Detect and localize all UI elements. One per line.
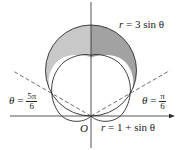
x-axis-arrow-icon <box>169 114 175 118</box>
fraction-pi-6: π6 <box>159 92 166 111</box>
cardioid-equation-label: r = 1 + sin θ <box>101 121 155 133</box>
fraction-5pi-6: 5π6 <box>26 92 37 111</box>
equals-sign: = <box>14 94 26 106</box>
fraction-denominator: 6 <box>159 102 166 111</box>
circle-equation-label: r = 3 sin θ <box>119 18 164 30</box>
equals-sign: = <box>147 94 159 106</box>
ray-label-5pi-6: θ = 5π6 <box>9 92 37 111</box>
fraction-denominator: 6 <box>26 102 37 111</box>
ray-label-pi-6: θ = π6 <box>142 92 166 111</box>
origin-label: O <box>80 122 88 134</box>
cardioid-eq-rhs: = 1 + sin θ <box>108 121 155 133</box>
circle-eq-rhs: = 3 sin θ <box>126 18 164 30</box>
cardioid-eq-lhs: r <box>101 121 105 133</box>
circle-eq-lhs: r <box>119 18 123 30</box>
